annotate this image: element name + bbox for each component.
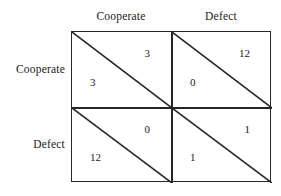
payoff-column-player: 12: [239, 47, 250, 59]
column-header-defect: Defect: [171, 8, 271, 24]
payoff-row-player: 1: [190, 151, 196, 163]
payoff-column-player: 0: [145, 123, 151, 135]
column-header-cooperate: Cooperate: [71, 8, 171, 24]
payoff-grid: 3 3 12 0 0 12 1 1: [71, 31, 271, 182]
cell-diagonal-icon: [172, 32, 272, 108]
cell-diagonal-icon: [72, 108, 172, 183]
cell-defect-defect: 1 1: [172, 108, 272, 183]
payoff-column-player: 1: [245, 123, 251, 135]
payoff-row-player: 12: [90, 151, 101, 163]
payoff-row-player: 3: [90, 76, 96, 88]
payoff-column-player: 3: [145, 47, 151, 59]
payoff-row-player: 0: [190, 76, 196, 88]
row-header-cooperate: Cooperate: [0, 62, 65, 76]
cell-diagonal-icon: [172, 108, 272, 183]
cell-defect-cooperate: 0 12: [72, 108, 172, 183]
cell-cooperate-cooperate: 3 3: [72, 32, 172, 108]
grid-divider-horizontal: [72, 107, 272, 109]
cell-diagonal-icon: [72, 32, 172, 108]
row-header-defect: Defect: [0, 137, 65, 151]
payoff-matrix-figure: Cooperate Defect Cooperate Defect 3 3 12…: [0, 0, 281, 196]
cell-cooperate-defect: 12 0: [172, 32, 272, 108]
